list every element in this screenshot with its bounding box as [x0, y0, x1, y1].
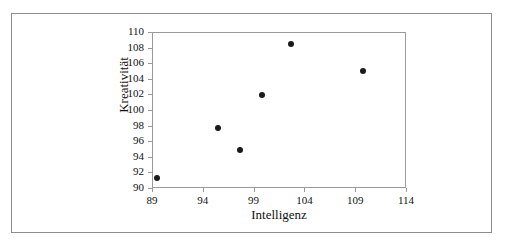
x-axis-title: Intelligenz: [152, 207, 406, 222]
data-point: [259, 92, 265, 98]
data-point: [215, 125, 221, 131]
data-point: [237, 147, 243, 153]
scatter-plot-figure: 1101081061041021009896949290899499104109…: [0, 0, 510, 250]
data-points-layer: [153, 33, 405, 187]
plot-area: [152, 32, 406, 188]
y-axis-title: Kreativität: [117, 50, 131, 120]
data-point: [360, 68, 366, 74]
data-point: [288, 41, 294, 47]
data-point: [154, 175, 160, 181]
